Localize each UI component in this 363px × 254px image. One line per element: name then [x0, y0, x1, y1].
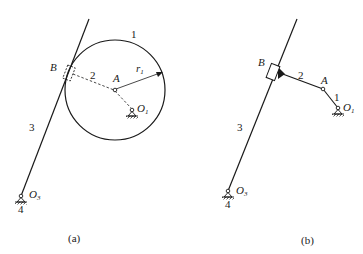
- joint-a-b: [321, 87, 325, 91]
- label-o1-b: O1: [343, 101, 354, 115]
- link3-line-b: [228, 19, 297, 191]
- label-link1-b: 1: [334, 91, 340, 103]
- radius-arrow-line: [116, 73, 160, 89]
- label-a-a: A: [112, 72, 120, 84]
- mechanism-diagram: 1 B 2 A r1 3 O1 O3 4 (a): [0, 0, 363, 254]
- label-o3-b: O3: [236, 184, 248, 198]
- label-ground-a: 4: [18, 203, 24, 215]
- slider-b: [266, 63, 280, 80]
- joint-a: [113, 88, 117, 92]
- caption-b: (b): [301, 234, 314, 247]
- figure-a: 1 B 2 A r1 3 O1 O3 4 (a): [15, 19, 165, 245]
- label-link2-b: 2: [298, 69, 304, 81]
- label-o3-a: O3: [29, 188, 41, 202]
- label-o1-a: O1: [137, 102, 148, 116]
- a-o1-dashed: [115, 91, 131, 108]
- figure-b: B 2 A 1 O1 3 O3 4 (b): [222, 19, 354, 247]
- label-link3-b: 3: [237, 121, 243, 133]
- label-link1-a: 1: [131, 28, 137, 40]
- label-r1: r1: [136, 62, 144, 76]
- slider-b-dashed: [63, 65, 75, 81]
- label-a-b: A: [320, 74, 328, 86]
- caption-a: (a): [68, 232, 81, 245]
- label-b-b: B: [258, 56, 265, 68]
- label-link2-a: 2: [90, 69, 96, 81]
- label-ground-b: 4: [225, 198, 231, 210]
- link3-line: [21, 19, 89, 196]
- label-b-a: B: [50, 61, 57, 73]
- label-link3-a: 3: [29, 121, 35, 133]
